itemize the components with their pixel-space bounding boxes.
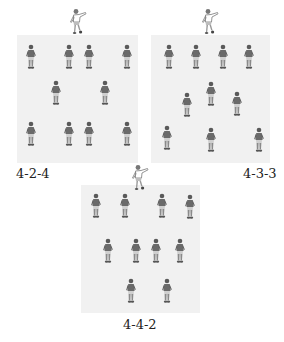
outfield-player-icon	[184, 194, 196, 220]
outfield-player-icon	[231, 91, 243, 117]
goalkeeper-icon	[130, 164, 150, 192]
outfield-player-icon	[217, 44, 229, 70]
outfield-player-icon	[50, 80, 62, 106]
outfield-player-icon	[125, 278, 137, 304]
outfield-player-icon	[63, 44, 75, 70]
outfield-player-icon	[90, 193, 102, 219]
goalkeeper-icon	[68, 8, 88, 36]
outfield-player-icon	[205, 81, 217, 107]
outfield-player-icon	[99, 80, 111, 106]
outfield-player-icon	[243, 44, 255, 70]
formation-label: 4-2-4	[16, 166, 50, 181]
outfield-player-icon	[156, 193, 168, 219]
outfield-player-icon	[161, 125, 173, 151]
formation-label: 4-3-3	[243, 166, 277, 181]
outfield-player-icon	[25, 44, 37, 70]
outfield-player-icon	[121, 44, 133, 70]
goalkeeper-icon	[200, 8, 220, 36]
outfield-player-icon	[102, 238, 114, 264]
outfield-player-icon	[163, 44, 175, 70]
outfield-player-icon	[119, 193, 131, 219]
outfield-player-icon	[181, 92, 193, 118]
formation-label: 4-4-2	[123, 317, 157, 332]
outfield-player-icon	[150, 238, 162, 264]
outfield-player-icon	[83, 121, 95, 147]
outfield-player-icon	[63, 121, 75, 147]
outfield-player-icon	[25, 121, 37, 147]
outfield-player-icon	[190, 44, 202, 70]
outfield-player-icon	[83, 44, 95, 70]
outfield-player-icon	[253, 127, 265, 153]
outfield-player-icon	[205, 127, 217, 153]
outfield-player-icon	[130, 238, 142, 264]
outfield-player-icon	[161, 278, 173, 304]
outfield-player-icon	[121, 121, 133, 147]
outfield-player-icon	[174, 238, 186, 264]
